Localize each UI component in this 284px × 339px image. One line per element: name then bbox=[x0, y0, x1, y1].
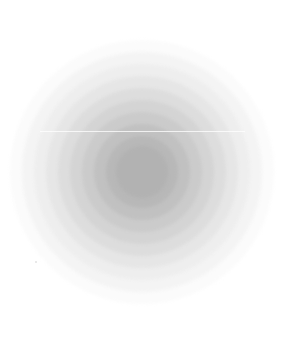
ring-9 bbox=[116, 146, 168, 198]
speck bbox=[35, 261, 37, 263]
horizontal-streak bbox=[40, 131, 245, 132]
